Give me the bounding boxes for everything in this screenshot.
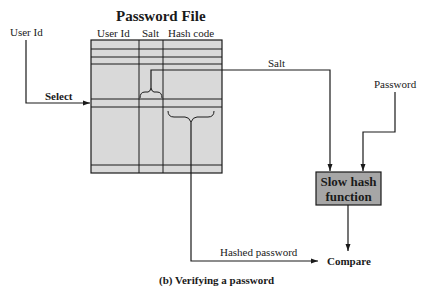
compare-label: Compare [327,256,371,267]
password-file-table [91,40,222,173]
password-file-title: Password File [116,9,206,24]
column-header-user-id: User Id [97,28,130,39]
slow-hash-function-label: Slow hash function [316,174,381,204]
diagram-lines [0,0,426,294]
select-label: Select [45,91,72,102]
password-input-label: Password [374,79,416,90]
figure-caption: (b) Verifying a password [159,275,274,286]
column-header-salt: Salt [142,28,159,39]
column-header-hash-code: Hash code [168,28,214,39]
password-arrow [363,92,395,171]
hashed-password-label: Hashed password [220,247,297,258]
salt-label: Salt [268,58,285,69]
password-verification-diagram: Password File User Id Salt Hash code Use… [0,0,426,294]
user-id-input-label: User Id [10,27,43,38]
